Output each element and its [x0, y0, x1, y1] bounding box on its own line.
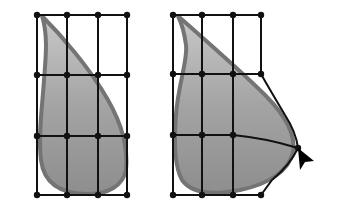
teardrop-shape-deformed — [175, 16, 294, 193]
arrow-cursor-icon — [298, 148, 314, 170]
ffd-diagram — [0, 0, 337, 209]
teardrop-shape-original — [40, 16, 127, 194]
original-panel — [34, 12, 130, 198]
deformed-panel — [170, 12, 314, 198]
